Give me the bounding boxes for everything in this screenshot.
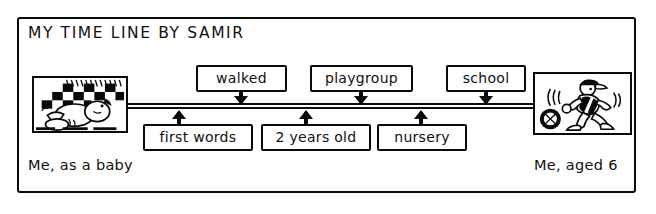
event-label: school: [463, 71, 510, 86]
up-arrow-icon-2-years-old: [299, 110, 313, 119]
timeline-rule-upper: [126, 103, 534, 105]
up-arrow-icon-nursery: [414, 110, 428, 119]
photo-boy-running: [533, 72, 632, 135]
event-label: nursery: [394, 130, 450, 145]
event-box-playgroup[interactable]: playgroup: [310, 65, 413, 92]
photo-baby: [32, 76, 128, 133]
down-arrow-icon-walked: [234, 96, 248, 105]
caption-boy: Me, aged 6: [534, 157, 618, 173]
down-arrow-icon-school: [479, 96, 493, 105]
event-label: walked: [216, 71, 267, 86]
timeline-rule-lower: [126, 107, 534, 109]
event-label: first words: [160, 130, 237, 145]
up-arrow-icon-first-words: [172, 110, 186, 119]
event-label: playgroup: [325, 71, 398, 86]
event-box-2-years-old[interactable]: 2 years old: [261, 124, 371, 151]
caption-baby: Me, as a baby: [28, 157, 133, 173]
down-arrow-icon-playgroup: [354, 96, 368, 105]
page-title: MY TIME LINE BY SAMIR: [28, 24, 245, 42]
event-label: 2 years old: [276, 130, 357, 145]
event-box-first-words[interactable]: first words: [143, 124, 253, 151]
timeline-worksheet: MY TIME LINE BY SAMIR walked playgroup s…: [0, 0, 656, 214]
event-box-school[interactable]: school: [446, 65, 526, 92]
timeline-axis: [126, 103, 534, 109]
event-box-walked[interactable]: walked: [196, 65, 287, 92]
event-box-nursery[interactable]: nursery: [377, 124, 467, 151]
